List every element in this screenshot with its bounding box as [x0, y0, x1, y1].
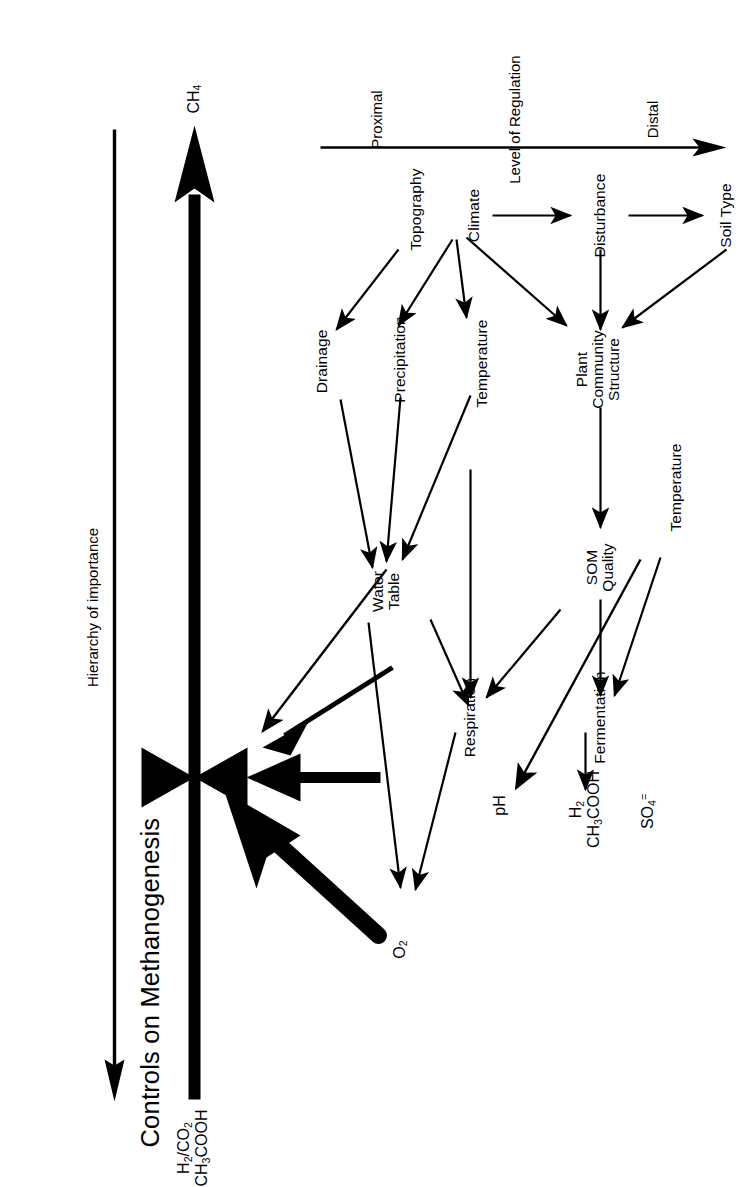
node-water-table: Water Table: [370, 571, 402, 612]
plant-line-2: Community: [590, 330, 606, 408]
substrate-label: H2/CO2 CH3COOH: [175, 1109, 210, 1186]
node-fermentation: Fermentation: [592, 671, 608, 764]
page-title: Controls on Methanogenesis: [136, 817, 163, 1147]
water-table-line-1: Water: [370, 571, 386, 612]
acetate-line: CH3COOH: [585, 771, 603, 848]
substrate-line-2: CH3COOH: [193, 1109, 211, 1186]
edge-so4-to-valve: [262, 569, 386, 731]
edge-ph-to-valve: [262, 667, 392, 755]
node-disturbance: Disturbance: [592, 173, 608, 257]
control-label-h2-acetate: H2 CH3COOH: [567, 771, 602, 848]
axis-caption: Level of Regulation: [506, 55, 522, 183]
water-table-line-2: Table: [386, 571, 402, 612]
node-soil-type: Soil Type: [718, 183, 734, 247]
node-temperature-right: Temperature: [668, 443, 684, 531]
node-topography: Topography: [408, 168, 424, 250]
diagram-canvas: Controls on Methanogenesis H2/CO2 CH3COO…: [0, 0, 743, 1187]
substrate-line-1: H2/CO2: [175, 1109, 193, 1186]
edge-o2-to-valve: [224, 791, 378, 935]
node-drainage: Drainage: [314, 329, 330, 393]
hierarchy-of-importance-label: Hierarchy of importance: [84, 527, 100, 686]
som-line-2: Quality: [600, 543, 616, 591]
figure-page: Controls on Methanogenesis H2/CO2 CH3COO…: [0, 0, 743, 1187]
hierarchy-of-importance-arrow: [104, 129, 124, 1101]
product-label-ch4: CH4: [185, 84, 203, 113]
node-respiration: Respiration: [462, 677, 478, 757]
control-label-so4: SO4=: [639, 793, 657, 828]
control-label-o2: O2: [391, 940, 409, 958]
node-climate: Climate: [466, 188, 482, 241]
node-temperature-left: Temperature: [474, 319, 490, 407]
som-line-1: SOM: [584, 543, 600, 591]
axis-label-distal: Distal: [644, 100, 660, 138]
control-label-ph: pH: [492, 795, 509, 815]
edge-h2-acetate-to-valve: [246, 753, 380, 801]
node-precipitation: Precipitation: [392, 316, 408, 403]
axis-label-proximal: Proximal: [368, 90, 384, 148]
node-plant-community-structure: Plant Community Structure: [574, 330, 622, 408]
node-som-quality: SOM Quality: [584, 543, 616, 591]
main-methanogenesis-arrow: [174, 125, 214, 1099]
plant-line-3: Structure: [606, 330, 622, 408]
plant-line-1: Plant: [574, 330, 590, 408]
h2-line: H2: [567, 771, 585, 848]
